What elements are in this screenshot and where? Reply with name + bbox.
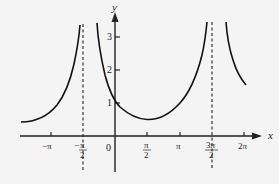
x-axis-arrow-icon bbox=[252, 133, 262, 140]
y-axis-arrow-icon bbox=[112, 12, 119, 22]
origin-label: 0 bbox=[106, 142, 111, 153]
tick-label-neg-half-pi-num: π bbox=[80, 140, 85, 150]
y-axis-label: y bbox=[111, 1, 117, 13]
tick-label-neg-half-pi-sign: − bbox=[74, 140, 79, 150]
tick-label-half-pi-num: π bbox=[144, 140, 149, 150]
x-axis-label: x bbox=[267, 129, 273, 141]
tick-label-y3: 3 bbox=[107, 31, 112, 42]
tick-label-pi: π bbox=[176, 141, 181, 151]
graph-canvas: x y 0 −π − π 2 π 2 π 3π 2 2π 1 2 3 bbox=[0, 0, 279, 184]
tick-label-y2: 2 bbox=[107, 64, 112, 75]
curve-middle-branch bbox=[97, 22, 207, 120]
tick-label-neg-pi: −π bbox=[42, 141, 52, 151]
tick-label-y1: 1 bbox=[107, 97, 112, 108]
tick-label-three-half-pi-den: 2 bbox=[209, 150, 214, 160]
function-graph: x y 0 −π − π 2 π 2 π 3π 2 2π 1 2 3 bbox=[0, 0, 279, 184]
tick-label-neg-half-pi-den: 2 bbox=[80, 150, 85, 160]
tick-label-three-half-pi-num: 3π bbox=[206, 140, 216, 150]
curve-left-branch bbox=[21, 25, 80, 122]
tick-label-half-pi-den: 2 bbox=[144, 150, 149, 160]
y-ticks bbox=[115, 37, 120, 103]
curve-right-branch bbox=[226, 22, 246, 85]
tick-label-two-pi: 2π bbox=[238, 141, 248, 151]
